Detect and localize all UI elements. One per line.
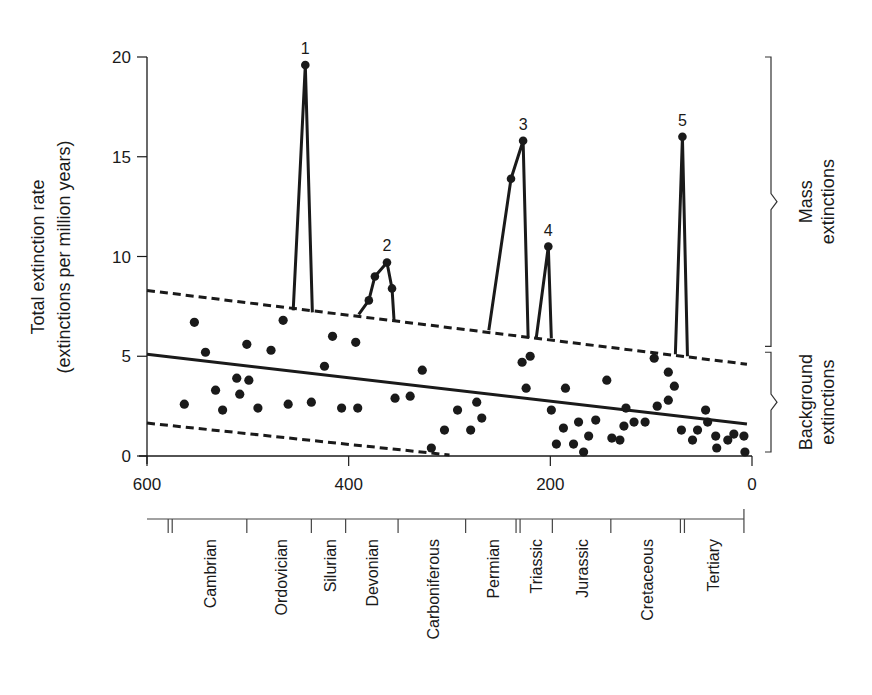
peak-point [507,174,516,183]
y-axis-title: Total extinction rate [28,179,48,334]
peak-point [365,296,374,305]
x-tick-label: 0 [747,475,756,494]
data-point [703,417,712,426]
data-point [569,439,578,448]
data-point [235,390,244,399]
data-point [729,429,738,438]
peak-number-label: 1 [301,40,310,57]
data-point [584,431,593,440]
data-point [427,443,436,452]
period-label-jurassic: Jurassic [574,539,591,598]
y-tick-label: 5 [122,347,131,366]
period-label-devonian: Devonian [364,539,381,607]
dashed-bound-line [147,423,450,455]
y-tick-label: 10 [112,248,131,267]
peak-point [388,284,397,293]
data-point [284,400,293,409]
chart-canvas: 051015206004002000 12345 Massextinctions… [0,0,872,695]
data-point [218,406,227,415]
data-point [472,398,481,407]
bracket-label: Background [796,354,816,450]
data-point [201,348,210,357]
data-point [337,404,346,413]
data-point [518,358,527,367]
dashed-bound-line [147,290,747,364]
bracket-label: extinctions [818,360,838,445]
data-point [664,368,673,377]
data-point [712,443,721,452]
data-point [244,376,253,385]
geologic-timescale: CambrianOrdovicianSilurianDevonianCarbon… [147,509,744,640]
data-point [253,404,262,413]
bracket [765,352,777,452]
regression-line [147,354,747,424]
data-point [242,340,251,349]
data-point [591,415,600,424]
data-point [650,354,659,363]
peak-number-label: 5 [678,112,687,129]
data-point [406,392,415,401]
period-label-tertiary: Tertiary [705,539,722,591]
data-point [740,447,749,456]
y-tick-label: 0 [122,447,131,466]
data-point [190,318,199,327]
y-tick-label: 20 [112,48,131,67]
period-label-silurian: Silurian [322,539,339,592]
period-label-triassic: Triassic [528,539,545,594]
axes: 051015206004002000 [112,48,757,494]
y-tick-label: 15 [112,148,131,167]
data-point [641,417,650,426]
bracket [765,57,777,346]
data-point [266,346,275,355]
data-point [453,406,462,415]
data-point [552,439,561,448]
data-point [561,384,570,393]
data-point [619,421,628,430]
data-point [693,425,702,434]
data-point [328,332,337,341]
x-tick-label: 400 [334,475,362,494]
category-brackets: MassextinctionsBackgroundextinctions [765,57,838,452]
data-point [629,417,638,426]
period-label-ordovician: Ordovician [273,539,290,615]
data-point [418,366,427,375]
extinction-rate-chart: 051015206004002000 12345 Massextinctions… [0,0,872,695]
data-point [466,425,475,434]
peak-number-label: 2 [383,237,392,254]
data-point [351,338,360,347]
peak-point [678,133,687,142]
data-point [522,384,531,393]
data-point [607,433,616,442]
data-point [390,394,399,403]
period-label-cambrian: Cambrian [202,539,219,608]
data-point [307,398,316,407]
data-point [180,400,189,409]
data-point [711,431,720,440]
data-point [279,316,288,325]
mass-extinction-peak [675,137,687,356]
peak-point [383,258,392,267]
data-point [559,423,568,432]
bracket-label: Mass [796,180,816,223]
mass-extinction-peak [359,262,394,320]
x-tick-label: 600 [133,475,161,494]
bracket-label: extinctions [818,159,838,244]
period-label-carboniferous: Carboniferous [425,539,442,640]
x-tick-label: 200 [536,475,564,494]
peak-point [544,242,553,251]
peak-point [371,272,380,281]
mass-extinction-peaks: 12345 [293,40,687,356]
peak-number-label: 3 [519,116,528,133]
data-point [477,413,486,422]
data-point [615,435,624,444]
data-point [670,382,679,391]
data-point [211,386,220,395]
mass-extinction-peak [489,141,528,339]
period-label-permian: Permian [485,539,502,599]
data-point [664,396,673,405]
y-axis-subtitle: (extinctions per million years) [54,140,74,373]
peak-number-label: 4 [544,222,553,239]
data-point [547,406,556,415]
data-point [574,417,583,426]
data-point [677,425,686,434]
